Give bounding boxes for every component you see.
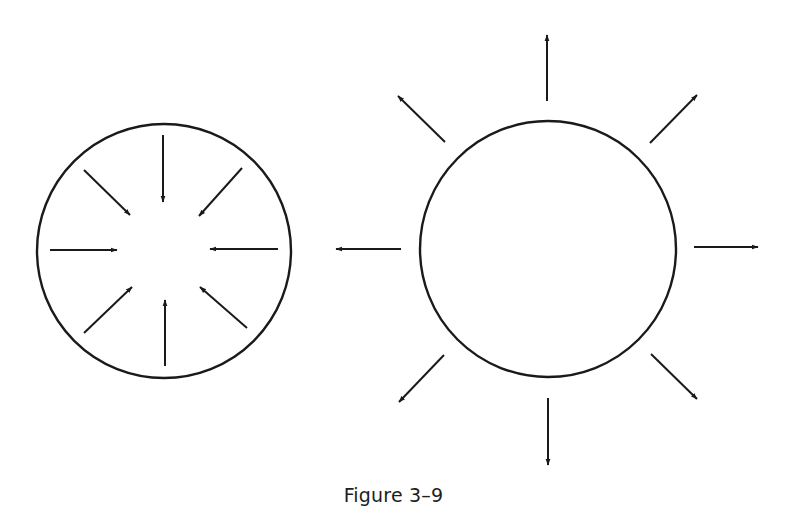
outward-arrow-icon: [651, 354, 697, 399]
diverging-circle: [420, 121, 676, 377]
outward-arrow-icon: [399, 355, 444, 402]
diverging-field-diagram: [336, 35, 758, 465]
diagram-canvas: [0, 0, 787, 524]
figure-caption: Figure 3–9: [0, 484, 787, 506]
inward-arrow-icon: [84, 287, 132, 333]
converging-field-diagram: [37, 124, 291, 378]
outward-arrow-icon: [398, 96, 445, 142]
inward-arrow-icon: [84, 170, 130, 215]
inward-arrow-icon: [200, 287, 247, 328]
inward-arrow-icon: [199, 168, 242, 216]
outward-arrow-icon: [650, 95, 697, 143]
